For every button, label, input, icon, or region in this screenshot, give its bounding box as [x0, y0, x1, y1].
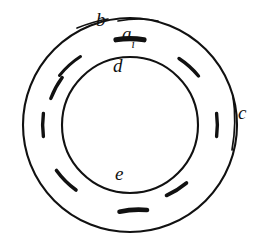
label-d: d	[113, 56, 123, 75]
leader-a-line	[118, 19, 158, 21]
dash-upper-left-icon	[60, 57, 81, 76]
dash-upper-right-icon	[179, 59, 199, 77]
dash-bottom-icon	[120, 210, 148, 212]
label-a-subscript: i	[132, 37, 135, 51]
figure-root: b ai d c e	[0, 0, 263, 248]
dash-lower-left-icon	[57, 171, 77, 191]
dash-lower-right-icon	[167, 183, 187, 196]
ring-dash-group	[43, 39, 218, 212]
inner-circle	[62, 57, 198, 193]
label-c: c	[238, 103, 246, 122]
label-e: e	[115, 164, 123, 183]
outer-circle	[23, 18, 237, 232]
label-a-subscript-i: ai	[122, 24, 135, 47]
leader-group	[77, 19, 235, 150]
dash-left-icon	[43, 114, 44, 137]
label-b: b	[96, 10, 106, 29]
leader-c-line	[232, 96, 235, 150]
dash-upper-left2-icon	[51, 78, 62, 99]
label-a-base: a	[122, 23, 132, 44]
dash-right-icon	[217, 114, 218, 137]
